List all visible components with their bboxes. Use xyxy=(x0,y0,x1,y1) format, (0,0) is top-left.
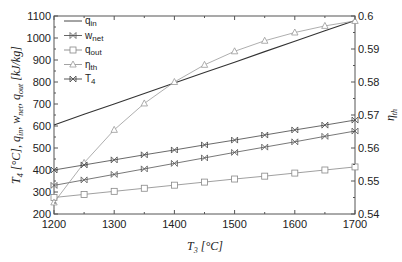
y-tick-label: 500 xyxy=(33,142,51,154)
y2-tick-label: 0.56 xyxy=(358,142,379,154)
y2-axis-title: ηth xyxy=(383,109,399,121)
data-marker xyxy=(232,176,238,182)
data-marker xyxy=(141,100,147,106)
y-tick-label: 300 xyxy=(33,186,51,198)
data-marker xyxy=(171,79,177,85)
legend-label: ηth xyxy=(85,59,97,72)
y-tick-label: 900 xyxy=(33,54,51,66)
y2-tick-label: 0.58 xyxy=(358,76,379,88)
legend-item: T4 xyxy=(64,73,96,86)
y-tick-label: 1100 xyxy=(27,10,51,22)
series-th xyxy=(51,17,358,205)
legend: qinwnetqoutηthT4 xyxy=(64,15,104,86)
data-marker xyxy=(141,185,147,191)
y-tick-label: 200 xyxy=(33,208,51,220)
legend-marker xyxy=(70,61,76,67)
chart: 120013001400150016001700 200300400500600… xyxy=(0,0,402,262)
legend-label: qin xyxy=(85,15,97,28)
y2-tick-label: 0.55 xyxy=(358,175,379,187)
y-tick-label: 800 xyxy=(33,76,51,88)
y-axis-title: T4 [°C], qin, wnet, qout [kJ/kg] xyxy=(9,46,25,184)
data-marker xyxy=(262,173,268,179)
y-axis-left: 20030040050060070080090010001100 xyxy=(27,10,58,220)
x-tick-label: 1500 xyxy=(222,218,246,230)
y2-tick-label: 0.54 xyxy=(358,208,379,220)
legend-marker xyxy=(70,47,76,53)
data-marker xyxy=(322,167,328,173)
series-layer xyxy=(51,17,358,205)
data-marker xyxy=(171,182,177,188)
y2-tick-label: 0.6 xyxy=(358,10,373,22)
x-tick-label: 1600 xyxy=(283,218,307,230)
data-marker xyxy=(202,179,208,185)
y-tick-label: 600 xyxy=(33,120,51,132)
series-qout xyxy=(51,164,358,201)
y-tick-label: 400 xyxy=(33,164,51,176)
legend-item: wnet xyxy=(64,30,104,43)
x-tick-label: 1300 xyxy=(102,218,126,230)
data-marker xyxy=(111,126,117,132)
x-axis-title: T3 [°C] xyxy=(187,239,223,255)
legend-item: qout xyxy=(64,44,102,57)
legend-label: qout xyxy=(85,44,102,57)
y-tick-label: 700 xyxy=(33,98,51,110)
data-marker xyxy=(201,61,207,67)
x-tick-label: 1400 xyxy=(162,218,186,230)
legend-label: T4 xyxy=(85,73,96,86)
y-tick-label: 1000 xyxy=(27,32,51,44)
data-marker xyxy=(81,191,87,197)
series-t4 xyxy=(51,117,358,173)
legend-label: wnet xyxy=(84,30,104,43)
data-marker xyxy=(111,188,117,194)
y2-tick-label: 0.59 xyxy=(358,43,379,55)
legend-item: qin xyxy=(64,15,97,28)
y2-tick-label: 0.57 xyxy=(358,109,379,121)
legend-item: ηth xyxy=(64,59,97,72)
data-marker xyxy=(292,170,298,176)
